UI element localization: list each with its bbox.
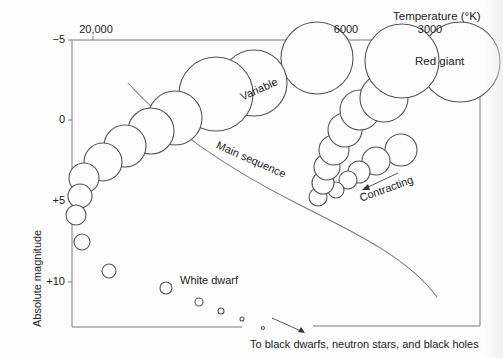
label-red-giant: Red giant bbox=[415, 56, 464, 68]
y-tick-plus5: +5 bbox=[31, 195, 65, 206]
x-tick-20000: 20,000 bbox=[79, 24, 113, 35]
y-axis-title: Absolute magnitude bbox=[32, 230, 43, 327]
x-axis-title: Temperature (°K) bbox=[393, 11, 481, 23]
page-edge-shadow bbox=[485, 0, 503, 358]
x-tick-3000: 3000 bbox=[418, 24, 442, 35]
y-tick-0: 0 bbox=[31, 114, 65, 125]
x-tick-6000: 6000 bbox=[334, 24, 358, 35]
y-tick-minus5: −5 bbox=[31, 34, 65, 45]
label-end-states: To black dwarfs, neutron stars, and blac… bbox=[250, 339, 479, 350]
hr-diagram: Temperature (°K) 20,000 6000 3000 −5 0 +… bbox=[0, 0, 503, 358]
diagram-canvas bbox=[0, 0, 503, 358]
end-state-arrow bbox=[272, 318, 305, 333]
label-white-dwarf: White dwarf bbox=[180, 275, 238, 286]
